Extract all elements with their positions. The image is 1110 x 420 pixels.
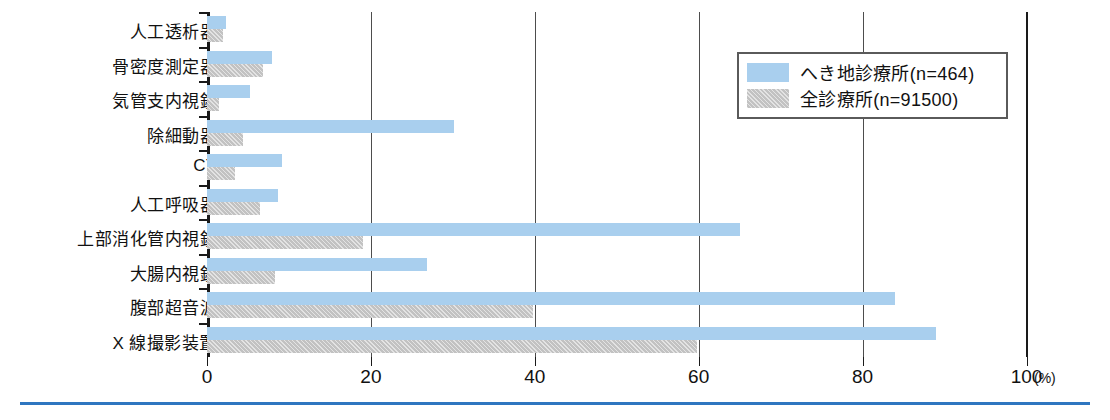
x-axis-tick xyxy=(699,357,700,366)
y-axis-tick xyxy=(199,288,207,290)
bar-row: X 線撮影装置 xyxy=(0,323,1110,358)
bar-row: 大腸内視鏡 xyxy=(0,254,1110,289)
x-axis-tick xyxy=(207,357,208,366)
bar-row: 人工呼吸器 xyxy=(0,185,1110,220)
bar-row: 上部消化管内視鏡 xyxy=(0,219,1110,254)
legend-item-1: 全診療所(n=91500) xyxy=(747,85,998,111)
y-axis-tick xyxy=(199,47,207,49)
bar-series-1 xyxy=(207,167,235,180)
bar-series-0 xyxy=(207,327,936,340)
bar-series-0 xyxy=(207,16,226,29)
bar-series-0 xyxy=(207,51,272,64)
x-axis-tick xyxy=(371,357,372,366)
y-axis-tick xyxy=(199,116,207,118)
bar-row: CT xyxy=(0,150,1110,185)
y-axis-tick xyxy=(199,12,207,14)
x-axis-label: 0 xyxy=(202,366,213,388)
x-axis-tick xyxy=(1027,357,1028,366)
y-axis-tick xyxy=(199,150,207,152)
y-axis-tick xyxy=(199,254,207,256)
bar-series-1 xyxy=(207,133,243,146)
bar-series-1 xyxy=(207,305,533,318)
bar-series-1 xyxy=(207,271,275,284)
x-axis-tick xyxy=(863,357,864,366)
bar-row: 腹部超音波 xyxy=(0,288,1110,323)
bar-series-0 xyxy=(207,258,427,271)
category-label: 腹部超音波 xyxy=(130,294,218,319)
category-label: 気管支内視鏡 xyxy=(112,87,217,112)
legend-label-series-0: へき地診療所(n=464) xyxy=(800,59,974,85)
x-axis-label: 20 xyxy=(360,366,381,388)
x-axis-unit: (%) xyxy=(1034,370,1056,386)
bar-series-1 xyxy=(207,340,697,353)
bar-series-0 xyxy=(207,120,454,133)
bar-series-1 xyxy=(207,64,263,77)
bar-series-1 xyxy=(207,236,363,249)
legend-item-0: へき地診療所(n=464) xyxy=(747,59,998,85)
x-axis-label: 60 xyxy=(688,366,709,388)
bar-series-0 xyxy=(207,154,282,167)
category-label: 骨密度測定器 xyxy=(112,53,217,78)
bar-row: 除細動器 xyxy=(0,116,1110,151)
legend-swatch-series-0 xyxy=(747,63,789,82)
bar-series-0 xyxy=(207,189,278,202)
bar-series-1 xyxy=(207,98,219,111)
bar-series-1 xyxy=(207,29,223,42)
bar-series-0 xyxy=(207,223,740,236)
y-axis-tick xyxy=(199,185,207,187)
x-axis-tick xyxy=(535,357,536,366)
category-label: 人工透析器 xyxy=(130,18,218,43)
category-label: 人工呼吸器 xyxy=(130,191,218,216)
category-label: X 線撮影装置 xyxy=(112,329,217,354)
bar-chart: 人工透析器骨密度測定器気管支内視鏡除細動器CT人工呼吸器上部消化管内視鏡大腸内視… xyxy=(0,0,1110,420)
bar-series-0 xyxy=(207,292,895,305)
bar-series-1 xyxy=(207,202,260,215)
y-axis-tick xyxy=(199,219,207,221)
legend-swatch-series-1 xyxy=(747,89,789,108)
y-axis-tick xyxy=(199,81,207,83)
bar-series-0 xyxy=(207,85,250,98)
footer-divider xyxy=(20,402,1090,405)
y-axis-tick xyxy=(199,323,207,325)
legend-label-series-1: 全診療所(n=91500) xyxy=(800,85,958,111)
x-axis-label: 80 xyxy=(852,366,873,388)
bar-row: 人工透析器 xyxy=(0,12,1110,47)
category-label: 大腸内視鏡 xyxy=(130,260,218,285)
legend: へき地診療所(n=464) 全診療所(n=91500) xyxy=(737,52,1008,119)
x-axis-label: 40 xyxy=(524,366,545,388)
category-label: 上部消化管内視鏡 xyxy=(77,225,217,250)
